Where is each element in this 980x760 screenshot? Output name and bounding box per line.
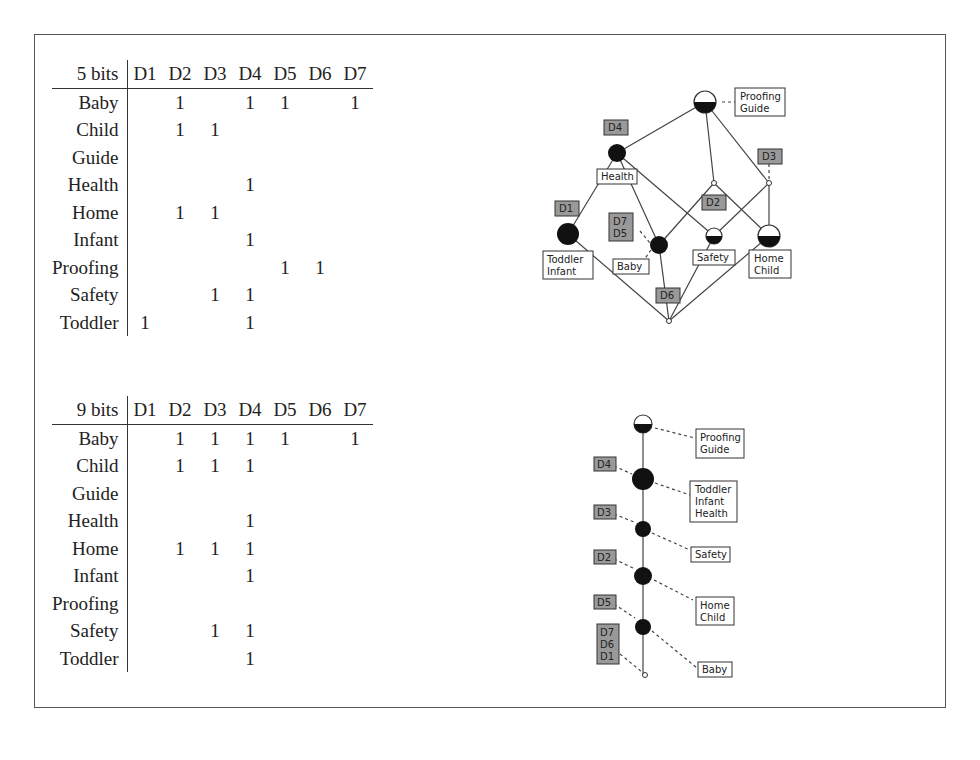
- svg-text:Toddler: Toddler: [694, 484, 732, 495]
- svg-text:Home: Home: [700, 600, 730, 611]
- svg-text:Safety: Safety: [695, 549, 727, 560]
- svg-text:D4: D4: [597, 459, 611, 470]
- chain-node-d5: [635, 619, 651, 635]
- attribute-label-d3: D3: [594, 505, 616, 519]
- object-label-toddler-infant-health: Toddler Infant Health: [690, 481, 737, 522]
- concept-lattice-9-bits: Proofing Guide Toddler Infant Health Saf…: [0, 0, 980, 760]
- svg-text:Infant: Infant: [695, 496, 724, 507]
- object-label-baby: Baby: [698, 662, 732, 677]
- attribute-label-d4: D4: [594, 457, 616, 471]
- chain-node-d3: [635, 521, 651, 537]
- svg-text:D6: D6: [600, 639, 614, 650]
- object-label-safety: Safety: [691, 547, 730, 562]
- svg-text:D5: D5: [597, 597, 611, 608]
- svg-text:D1: D1: [600, 651, 614, 662]
- attribute-label-d5: D5: [594, 595, 616, 609]
- svg-text:Child: Child: [700, 612, 725, 623]
- object-label-proofing-guide: Proofing Guide: [696, 429, 744, 458]
- attribute-label-d7-d6-d1: D7 D6 D1: [597, 624, 619, 664]
- chain-node-bottom: [643, 673, 648, 678]
- svg-text:Proofing: Proofing: [700, 432, 741, 443]
- attribute-label-d2: D2: [594, 550, 616, 564]
- chain-node-top: [634, 415, 652, 433]
- object-label-home-child: Home Child: [696, 597, 734, 625]
- svg-text:D2: D2: [597, 552, 611, 563]
- svg-text:D3: D3: [597, 507, 611, 518]
- chain-node-d4: [632, 468, 654, 490]
- chain-node-d2: [634, 567, 652, 585]
- svg-text:Baby: Baby: [702, 664, 727, 675]
- svg-text:D7: D7: [600, 627, 614, 638]
- svg-text:Health: Health: [695, 508, 728, 519]
- svg-text:Guide: Guide: [700, 444, 729, 455]
